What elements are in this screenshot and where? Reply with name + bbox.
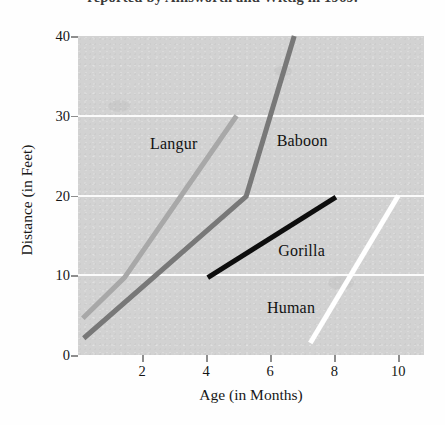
y-tickmark-30 [71, 116, 78, 118]
y-tickmark-10 [71, 275, 78, 277]
series-label-langur: Langur [150, 135, 197, 153]
x-tick-label-6: 6 [250, 364, 290, 379]
series-label-human: Human [267, 299, 315, 317]
y-tick-label-0: 0 [30, 348, 70, 363]
y-tickmark-20 [71, 196, 78, 198]
series-label-baboon: Baboon [277, 132, 328, 150]
y-axis-tick-labels: 010203040 [26, 0, 70, 425]
series-lines [78, 36, 424, 355]
y-tick-label-40: 40 [30, 29, 70, 44]
y-tick-label-20: 20 [30, 189, 70, 204]
series-line-gorilla [208, 197, 336, 278]
x-tickmark-8 [334, 355, 336, 362]
x-tick-label-4: 4 [186, 364, 226, 379]
x-tick-label-10: 10 [378, 364, 418, 379]
x-axis-tick-labels: 246810 [0, 364, 445, 384]
x-tickmark-2 [142, 355, 144, 362]
x-axis-title: Age (in Months) [78, 386, 424, 404]
y-tickmark-0 [71, 355, 78, 357]
series-label-gorilla: Gorilla [278, 242, 325, 260]
y-tickmark-40 [71, 36, 78, 38]
y-tick-label-10: 10 [30, 268, 70, 283]
y-tick-label-30: 30 [30, 109, 70, 124]
chart-figure: reported by Ainsworth and Wittig in 1969… [0, 0, 445, 425]
x-tickmark-4 [206, 355, 208, 362]
x-tick-label-2: 2 [122, 364, 162, 379]
plot-area: LangurBaboonGorillaHuman [78, 36, 424, 355]
x-tick-label-8: 8 [314, 364, 354, 379]
x-tickmark-6 [270, 355, 272, 362]
x-tickmark-10 [398, 355, 400, 362]
series-line-human [310, 196, 398, 344]
